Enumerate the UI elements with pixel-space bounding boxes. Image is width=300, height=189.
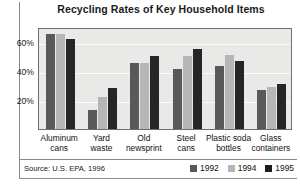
- legend-item-1995: 1995: [265, 163, 294, 173]
- bar-1995: [193, 49, 202, 129]
- x-axis-category-label: Glasscontainers: [242, 133, 300, 153]
- bar-group: [124, 29, 166, 129]
- legend-label-1994: 1994: [238, 163, 257, 173]
- plot-area: [38, 28, 292, 130]
- legend-item-1994: 1994: [228, 163, 257, 173]
- y-axis-tick-label: 20%: [0, 96, 34, 106]
- legend-swatch-icon-1992: [190, 165, 197, 172]
- bar-1994: [225, 55, 234, 129]
- bar-1994: [183, 56, 192, 129]
- figure-bottom-rule: [19, 178, 297, 179]
- footer-divider: [19, 159, 297, 160]
- bar-group: [39, 29, 81, 129]
- bar-group: [81, 29, 123, 129]
- legend-item-1992: 1992: [190, 163, 219, 173]
- bar-1994: [98, 97, 107, 129]
- bar-1994: [140, 63, 149, 129]
- legend-label-1992: 1992: [200, 163, 219, 173]
- bar-1992: [88, 110, 97, 129]
- legend-swatch-icon-1995: [265, 165, 272, 172]
- chart-title: Recycling Rates of Key Household Items: [30, 3, 292, 15]
- bar-1995: [108, 88, 117, 129]
- y-axis-tick-label: 40%: [0, 67, 34, 77]
- bar-1992: [173, 69, 182, 129]
- source-note: Source: U.S. EPA, 1996: [24, 164, 105, 173]
- bar-1992: [130, 63, 139, 129]
- bar-1995: [277, 84, 286, 129]
- bar-1994: [267, 87, 276, 129]
- legend-label-1995: 1995: [275, 163, 294, 173]
- bar-1992: [257, 90, 266, 129]
- bar-group: [251, 29, 293, 129]
- legend-swatch-icon-1994: [228, 165, 235, 172]
- bar-group: [166, 29, 208, 129]
- bar-1995: [235, 61, 244, 129]
- y-axis-tick-label: 60%: [0, 38, 34, 48]
- bar-1992: [46, 34, 55, 129]
- chart-figure: Recycling Rates of Key Household Items 2…: [0, 0, 300, 189]
- bar-group: [208, 29, 250, 129]
- bar-1992: [215, 66, 224, 129]
- chart-legend: 1992 1994 1995: [190, 163, 294, 173]
- bar-1994: [56, 34, 65, 129]
- bar-1995: [150, 56, 159, 129]
- figure-left-rule: [19, 2, 20, 178]
- bar-1995: [66, 39, 75, 129]
